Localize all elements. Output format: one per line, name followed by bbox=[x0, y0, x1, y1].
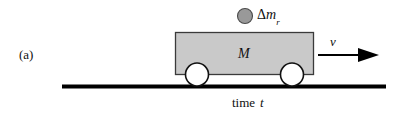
cart-mass-label: M bbox=[238, 47, 250, 61]
physics-figure-panel-a: (a) M Δmr v timet bbox=[0, 0, 400, 119]
time-caption: timet bbox=[232, 96, 264, 109]
velocity-arrow bbox=[318, 48, 379, 62]
delta-mass-label: Δmr bbox=[257, 8, 280, 25]
cart-wheel-right bbox=[281, 63, 304, 86]
velocity-arrow-head bbox=[358, 48, 379, 62]
delta-mass-circle bbox=[238, 9, 253, 24]
cart-wheel-left bbox=[186, 63, 209, 86]
delta-mass-subscript: r bbox=[276, 17, 280, 27]
delta-mass-variable: m bbox=[266, 7, 276, 22]
velocity-label: v bbox=[330, 35, 336, 48]
time-caption-word: time bbox=[232, 95, 255, 110]
delta-symbol: Δ bbox=[257, 7, 266, 22]
figure-canvas bbox=[0, 0, 400, 119]
time-caption-variable: t bbox=[255, 95, 264, 110]
panel-label: (a) bbox=[19, 48, 33, 61]
